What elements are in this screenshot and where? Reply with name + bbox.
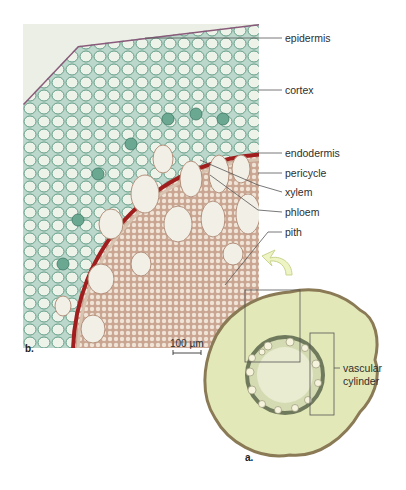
panel-letter-b: b. [25, 343, 34, 354]
label-cortex: cortex [285, 84, 314, 96]
scale-bar-label: 100 µm [170, 338, 204, 349]
label-vascular: vascular [343, 362, 382, 374]
label-phloem: phloem [285, 206, 319, 218]
label-endodermis: endodermis [285, 147, 340, 159]
label-xylem: xylem [285, 186, 312, 198]
panel-letter-a: a. [245, 452, 253, 463]
label-pith: pith [285, 226, 302, 238]
label-epidermis: epidermis [285, 32, 331, 44]
label-pericycle: pericycle [285, 167, 326, 179]
root-cross-section-figure: epidermis cortex endodermis pericycle xy… [0, 0, 406, 490]
curved-arrow-icon [262, 250, 292, 275]
label-cylinder: cylinder [343, 375, 379, 387]
leader-lines [0, 0, 406, 490]
